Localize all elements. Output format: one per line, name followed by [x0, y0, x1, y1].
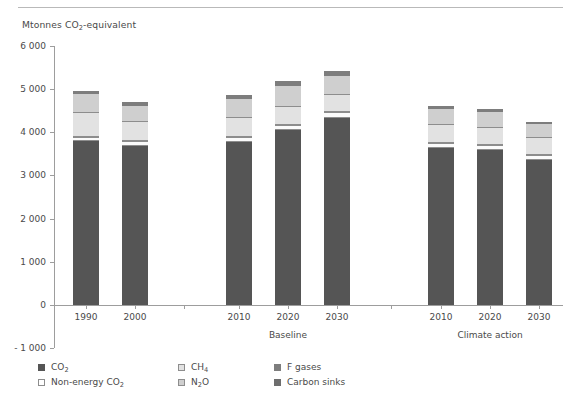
legend-label: N2O: [191, 378, 209, 387]
legend-label: Carbon sinks: [287, 378, 345, 387]
y-axis-tick-label: 2 000: [20, 214, 46, 224]
x-axis-label-2030: 2030: [307, 312, 367, 322]
bar-segment-n2o: [226, 99, 252, 118]
x-axis-tick: [337, 305, 338, 309]
top-divider-rule: [18, 7, 563, 8]
bar-segment-co2: [428, 148, 454, 305]
legend-swatch-icon: [38, 364, 45, 371]
y-axis-tick-label: 5 000: [20, 84, 46, 94]
legend-swatch-icon: [274, 379, 281, 386]
y-axis-tick-label: 6 000: [20, 41, 46, 51]
bar-segment-n2o: [73, 94, 99, 113]
bar-segment-ch4: [428, 125, 454, 142]
bar-segment-ch4: [73, 113, 99, 136]
bar-2010[interactable]: [226, 95, 252, 305]
group-label-climate-action: Climate action: [420, 330, 560, 340]
y-axis-tick-label: 0: [40, 300, 46, 310]
y-axis-tick-label: 4 000: [20, 127, 46, 137]
y-axis-tick: [50, 348, 54, 349]
x-axis-tick: [539, 305, 540, 309]
legend-swatch-icon: [178, 364, 185, 371]
legend-label: Non-energy CO2: [51, 378, 124, 387]
bar-segment-co2: [477, 150, 503, 305]
legend-label: CO2: [51, 363, 69, 372]
bar-segment-n2o: [428, 109, 454, 125]
bar-segment-ch4: [226, 118, 252, 137]
bar-2030[interactable]: [324, 71, 350, 304]
legend-swatch-icon: [178, 379, 185, 386]
bar-segment-co2: [226, 142, 252, 305]
group-label-baseline: Baseline: [218, 330, 358, 340]
legend-label: F gases: [287, 363, 321, 372]
x-axis-tick: [184, 305, 185, 309]
y-axis-tick-label: - 1 000: [14, 343, 46, 353]
legend-item-sinks[interactable]: Carbon sinks: [274, 378, 414, 387]
y-axis-tick: [50, 262, 54, 263]
y-axis-title: Mtonnes CO2-equivalent: [22, 19, 136, 30]
bar-2000[interactable]: [122, 102, 148, 305]
bar-2020[interactable]: [477, 109, 503, 304]
y-axis-tick-label: 1 000: [20, 257, 46, 267]
bar-segment-co2: [122, 146, 148, 305]
bar-2020[interactable]: [275, 81, 301, 305]
bar-segment-ch4: [477, 128, 503, 145]
y-axis-title-main: Mtonnes CO: [22, 19, 79, 30]
bar-segment-n2o: [275, 86, 301, 107]
bar-1990[interactable]: [73, 91, 99, 305]
legend-item-nonenergy[interactable]: Non-energy CO2: [38, 378, 178, 387]
legend-swatch-icon: [274, 364, 281, 371]
bar-segment-n2o: [477, 112, 503, 128]
bar-segment-ch4: [526, 138, 552, 154]
legend-row: CO2CH4F gases: [38, 363, 458, 372]
x-axis-line: [54, 305, 563, 306]
y-axis-tick-label: 3 000: [20, 170, 46, 180]
x-axis-tick: [490, 305, 491, 309]
legend-row: Non-energy CO2N2OCarbon sinks: [38, 378, 458, 387]
legend-label: CH4: [191, 363, 208, 372]
y-axis-tick: [50, 46, 54, 47]
y-axis-tick: [50, 175, 54, 176]
legend-item-fgas[interactable]: F gases: [274, 363, 414, 372]
bar-segment-n2o: [526, 124, 552, 138]
legend-item-co2[interactable]: CO2: [38, 363, 178, 372]
bar-segment-co2: [275, 130, 301, 305]
bar-segment-n2o: [122, 106, 148, 123]
bar-segment-co2: [73, 141, 99, 305]
bar-segment-co2: [324, 118, 350, 304]
y-axis-tick: [50, 89, 54, 90]
bar-segment-co2: [526, 160, 552, 305]
x-axis-label-2030: 2030: [509, 312, 569, 322]
x-axis-tick: [288, 305, 289, 309]
y-axis-line: [54, 46, 55, 348]
chart-legend: CO2CH4F gasesNon-energy CO2N2OCarbon sin…: [38, 363, 458, 393]
bar-2010[interactable]: [428, 106, 454, 305]
x-axis-label-2000: 2000: [105, 312, 165, 322]
bar-2030[interactable]: [526, 122, 552, 305]
x-axis-tick: [391, 305, 392, 309]
y-axis-tick: [50, 219, 54, 220]
x-axis-tick: [441, 305, 442, 309]
y-axis-title-subscript: 2: [79, 24, 83, 32]
y-axis-title-tail: -equivalent: [83, 19, 136, 30]
bar-segment-ch4: [275, 107, 301, 125]
x-axis-tick: [86, 305, 87, 309]
legend-item-n2o[interactable]: N2O: [178, 378, 274, 387]
x-axis-tick: [135, 305, 136, 309]
chart-plot-area: 6 0005 0004 0003 0002 0001 0000- 1 000 1…: [54, 46, 563, 348]
bar-segment-ch4: [122, 122, 148, 141]
bar-segment-n2o: [324, 76, 350, 95]
bar-segment-ch4: [324, 95, 350, 112]
legend-swatch-icon: [38, 379, 45, 386]
legend-item-ch4[interactable]: CH4: [178, 363, 274, 372]
x-axis-tick: [239, 305, 240, 309]
y-axis-tick: [50, 132, 54, 133]
